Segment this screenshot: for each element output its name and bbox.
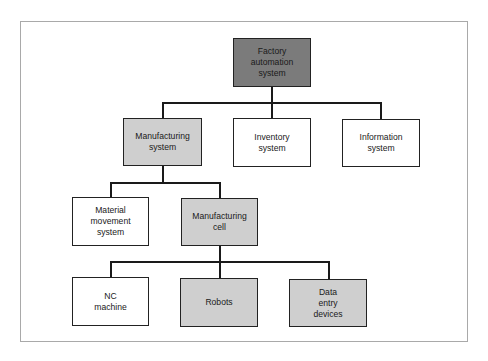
connector [162, 102, 164, 118]
connector [162, 166, 164, 183]
connector [110, 261, 112, 277]
connector [271, 102, 273, 118]
connector [219, 246, 221, 262]
connector [219, 261, 221, 278]
node-label: Robots [205, 297, 232, 308]
node-label: Manufacturing system [135, 131, 189, 153]
node-label: Factory automation system [251, 46, 294, 79]
node-label: Data entry devices [313, 287, 342, 320]
node-label: Information system [360, 132, 403, 154]
node-label: Inventory system [254, 132, 289, 154]
connector [380, 102, 382, 119]
node-material-movement-system: Material movement system [72, 197, 149, 246]
connector [328, 261, 330, 279]
node-factory-automation-system: Factory automation system [233, 38, 311, 87]
connector [110, 182, 221, 184]
node-data-entry-devices: Data entry devices [289, 279, 367, 327]
connector [219, 182, 221, 198]
connector [110, 182, 112, 197]
node-robots: Robots [180, 278, 258, 327]
node-information-system: Information system [342, 119, 420, 167]
node-manufacturing-cell: Manufacturing cell [181, 198, 258, 246]
node-label: NC machine [94, 291, 126, 313]
node-label: Manufacturing cell [192, 211, 246, 233]
node-manufacturing-system: Manufacturing system [123, 118, 202, 166]
node-label: Material movement system [90, 205, 130, 238]
node-nc-machine: NC machine [72, 277, 149, 326]
node-inventory-system: Inventory system [233, 118, 311, 167]
